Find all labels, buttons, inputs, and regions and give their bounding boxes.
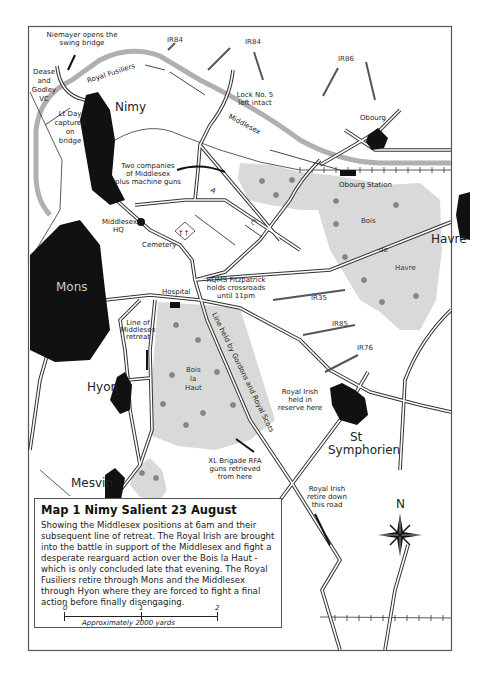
label-bois-la-haut-2: la bbox=[190, 375, 196, 383]
label-mesvin: Mesvin bbox=[71, 476, 113, 490]
label-hospital: Hospital bbox=[162, 288, 191, 296]
label-ir85: IR85 bbox=[332, 320, 348, 328]
scale-label-0: 0 bbox=[63, 604, 67, 612]
label-ir84-west: IR84 bbox=[167, 36, 183, 44]
obourg-station bbox=[340, 170, 356, 176]
label-bois-de-havre-1: Bois bbox=[361, 217, 376, 225]
note-ltday-3: on bbox=[66, 128, 75, 136]
label-bois-de-havre-3: Havre bbox=[395, 264, 416, 272]
label-bois-la-haut-1: Bois bbox=[186, 366, 201, 374]
note-retire-1: Royal Irish bbox=[309, 485, 345, 493]
label-st: St bbox=[350, 430, 363, 444]
note-dease-2: and bbox=[37, 77, 50, 85]
label-hyon: Hyon bbox=[87, 380, 118, 394]
note-ltday-2: captured bbox=[54, 119, 85, 127]
cemetery-crosses: † † bbox=[179, 229, 189, 237]
scale-bar: 0 1 2 Approximately 2000 yards bbox=[64, 608, 218, 628]
note-companies-1: Two companies bbox=[120, 162, 175, 170]
label-ir86: IR86 bbox=[338, 55, 354, 63]
label-ir84-east: IR84 bbox=[245, 38, 261, 46]
note-retreat-3: retreat bbox=[126, 333, 150, 341]
label-middlesex-hq-2: HQ bbox=[113, 226, 124, 234]
note-rqms-1: RQMS Fitzpatrick bbox=[206, 276, 266, 284]
note-niemayer-2: swing bridge bbox=[60, 39, 105, 47]
scale-tick-2 bbox=[217, 612, 218, 621]
note-ltday-4: bridge bbox=[59, 137, 81, 145]
note-rqms-2: holds crossroads bbox=[207, 284, 266, 292]
label-bois-la-haut-3: Haut bbox=[185, 384, 202, 392]
note-dease-4: VC bbox=[39, 95, 49, 103]
note-retire-2: retire down bbox=[307, 493, 347, 501]
scale-caption: Approximately 2000 yards bbox=[82, 619, 175, 627]
label-havre: Havre bbox=[431, 232, 467, 246]
note-reserve-1: Royal Irish bbox=[282, 388, 318, 396]
note-lock5-2: left intact bbox=[238, 99, 272, 107]
scale-label-2: 2 bbox=[215, 604, 219, 612]
note-xl-2: guns retrieved bbox=[210, 465, 261, 473]
note-dease-3: Godley bbox=[32, 86, 57, 94]
label-symphorien: Symphorien bbox=[328, 443, 400, 457]
note-ltday-1: Lt Day bbox=[59, 110, 82, 118]
note-retire-3: this road bbox=[312, 501, 343, 509]
label-obourg-station: Obourg Station bbox=[339, 181, 392, 189]
label-obourg: Obourg bbox=[360, 114, 386, 122]
note-xl-3: from here bbox=[218, 473, 252, 481]
middlesex-hq-marker bbox=[137, 218, 145, 226]
note-xl-1: XL Brigade RFA bbox=[208, 457, 262, 465]
note-dease-1: Dease bbox=[33, 68, 55, 76]
label-ir35: IR35 bbox=[311, 294, 327, 302]
map-description: Showing the Middlesex positions at 6am a… bbox=[41, 520, 275, 608]
scale-label-1: 1 bbox=[139, 604, 143, 612]
label-ir76: IR76 bbox=[357, 344, 373, 352]
note-lock5-1: Lock No. 5 bbox=[237, 91, 274, 99]
note-companies-2: of Middlesex bbox=[126, 170, 170, 178]
note-companies-3: plus machine guns bbox=[115, 178, 181, 186]
note-reserve-3: reserve here bbox=[278, 404, 322, 412]
map-title: Map 1 Nimy Salient 23 August bbox=[41, 503, 275, 517]
note-reserve-2: held in bbox=[288, 396, 312, 404]
label-mons: Mons bbox=[56, 280, 88, 294]
hospital-building bbox=[170, 302, 180, 308]
note-rqms-3: until 11pm bbox=[217, 292, 255, 300]
compass-north-label: N bbox=[396, 497, 405, 511]
label-nimy: Nimy bbox=[115, 100, 146, 114]
scale-tick-0 bbox=[64, 612, 65, 621]
label-middlesex-hq-1: Middlesex bbox=[102, 218, 137, 226]
label-bois-de-havre-2: de bbox=[379, 246, 388, 254]
note-niemayer-1: Niemayer opens the bbox=[47, 31, 118, 39]
label-cemetery: Cemetery bbox=[142, 241, 176, 249]
